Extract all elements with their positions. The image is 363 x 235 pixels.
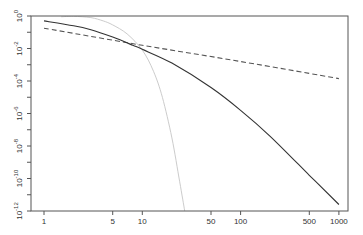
y-tick-label: 10-4 (13, 73, 24, 88)
svg-text:10-2: 10-2 (13, 41, 24, 56)
svg-text:10-10: 10-10 (13, 169, 24, 187)
svg-text:100: 100 (13, 9, 24, 22)
series-dashed-line (44, 28, 339, 78)
svg-text:10-6: 10-6 (13, 106, 24, 121)
svg-text:10-4: 10-4 (13, 73, 24, 88)
plot-area (44, 16, 339, 211)
x-tick-label: 5 (110, 217, 115, 226)
y-tick-label: 100 (13, 9, 24, 22)
svg-text:10-8: 10-8 (13, 138, 24, 153)
plot-frame (31, 16, 348, 211)
svg-text:10-12: 10-12 (13, 202, 24, 220)
log-log-line-chart: 1510501005001000 10010-210-410-610-810-1… (0, 0, 363, 235)
x-tick-label: 1000 (330, 217, 348, 226)
y-tick-label: 10-12 (13, 202, 24, 220)
series-solid-dark-line (44, 21, 339, 205)
x-tick-label: 50 (207, 217, 216, 226)
y-tick-label: 10-2 (13, 41, 24, 56)
x-tick-label: 100 (234, 217, 248, 226)
x-tick-label: 10 (138, 217, 147, 226)
x-tick-label: 500 (303, 217, 317, 226)
x-tick-label: 1 (42, 217, 47, 226)
y-tick-label: 10-8 (13, 138, 24, 153)
y-axis: 10010-210-410-610-810-1010-12 (13, 9, 31, 220)
y-tick-label: 10-10 (13, 169, 24, 187)
x-axis: 1510501005001000 (42, 211, 349, 226)
series-light-grey-line (61, 16, 184, 211)
y-tick-label: 10-6 (13, 106, 24, 121)
